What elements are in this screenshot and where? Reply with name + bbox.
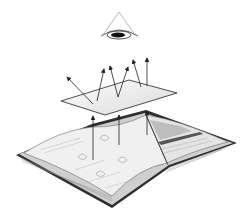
eye-icon <box>101 12 138 39</box>
open-book <box>16 110 237 208</box>
transparent-sheet <box>61 80 177 115</box>
diagram-canvas <box>0 0 244 215</box>
